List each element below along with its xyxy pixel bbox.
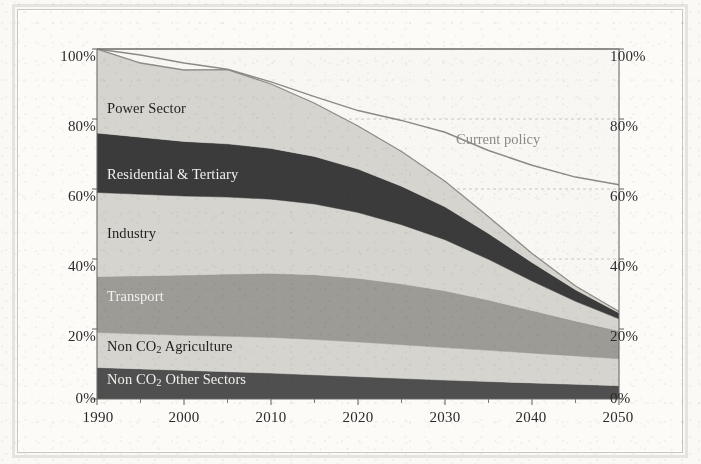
band-label-power-sector: Power Sector: [107, 100, 186, 117]
y-axis-right-tick-60: 60%: [610, 188, 670, 205]
band-label-non-co2-agriculture: Non CO2 Agriculture: [107, 338, 233, 355]
y-axis-right-tick-0: 0%: [610, 390, 670, 407]
band-label-non-co2-other-sectors-tail: Other Sectors: [162, 371, 246, 387]
x-axis-tick-2000: 2000: [155, 409, 213, 426]
band-label-industry: Industry: [107, 225, 156, 242]
x-axis-tick-2030: 2030: [416, 409, 474, 426]
x-axis-tick-2020: 2020: [329, 409, 387, 426]
x-axis-tick-2040: 2040: [502, 409, 560, 426]
band-label-industry-text: Industry: [107, 225, 156, 241]
y-axis-left-tick-100: 100%: [40, 48, 96, 65]
band-label-non-co2-agriculture-tail: Agriculture: [162, 338, 233, 354]
current-policy-label: Current policy: [456, 131, 540, 148]
y-axis-right-tick-20: 20%: [610, 328, 670, 345]
y-axis-left-tick-20: 20%: [40, 328, 96, 345]
band-label-transport: Transport: [107, 288, 164, 305]
band-label-power-sector-text: Power Sector: [107, 100, 186, 116]
band-label-non-co2-agriculture-text: Non CO: [107, 338, 156, 354]
band-label-residential-tertiary: Residential & Tertiary: [107, 166, 238, 183]
y-axis-right-tick-80: 80%: [610, 118, 670, 135]
x-axis-tick-2010: 2010: [242, 409, 300, 426]
scanned-figure-page: 100% 80% 60% 40% 20% 0% 100% 80% 60% 40%…: [0, 0, 701, 464]
y-axis-left-tick-60: 60%: [40, 188, 96, 205]
band-label-residential-tertiary-text: Residential & Tertiary: [107, 166, 238, 182]
band-label-non-co2-other-sectors-text: Non CO: [107, 371, 156, 387]
x-axis-tick-2050: 2050: [589, 409, 647, 426]
y-axis-left-tick-40: 40%: [40, 258, 96, 275]
y-axis-left-tick-0: 0%: [40, 390, 96, 407]
chart-plot-area: 100% 80% 60% 40% 20% 0% 100% 80% 60% 40%…: [18, 10, 682, 452]
y-axis-right-tick-100: 100%: [610, 48, 670, 65]
band-label-non-co2-other-sectors: Non CO2 Other Sectors: [107, 371, 246, 388]
x-axis-tick-1990: 1990: [69, 409, 127, 426]
figure-frame: 100% 80% 60% 40% 20% 0% 100% 80% 60% 40%…: [17, 9, 683, 453]
y-axis-left-tick-80: 80%: [40, 118, 96, 135]
band-label-transport-text: Transport: [107, 288, 164, 304]
y-axis-right-tick-40: 40%: [610, 258, 670, 275]
